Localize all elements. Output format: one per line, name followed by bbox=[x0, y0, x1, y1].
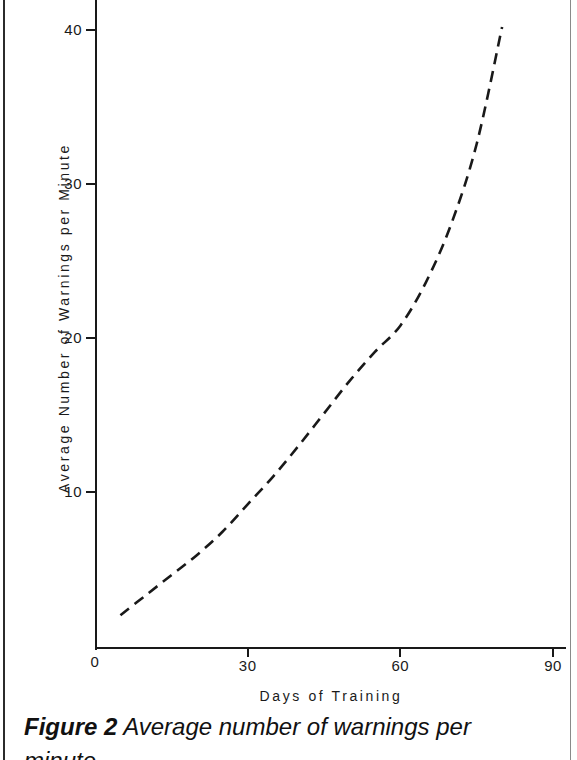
figure-2: 10203040 0306090 Average Number of Warni… bbox=[0, 0, 577, 760]
figure-caption-text: Average number of warnings per bbox=[123, 713, 471, 740]
warnings-curve-path bbox=[120, 27, 502, 615]
y-axis-title: Average Number of Warnings per Minute bbox=[56, 108, 72, 528]
figure-caption-line2: minute. bbox=[24, 746, 564, 760]
x-axis-title: Days of Training bbox=[96, 688, 566, 704]
plot-area: 10203040 0306090 Average Number of Warni… bbox=[0, 0, 577, 700]
figure-caption: Figure 2 Average number of warnings per bbox=[24, 712, 564, 742]
figure-caption-label: Figure 2 bbox=[24, 713, 117, 740]
data-curve bbox=[0, 0, 577, 700]
